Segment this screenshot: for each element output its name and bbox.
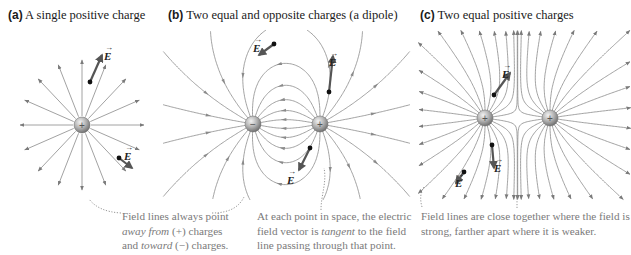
e-vector-label-c3: →E: [455, 177, 462, 189]
svg-text:+: +: [79, 120, 85, 131]
caption-b-line1: At each point in space, the electric: [257, 209, 411, 224]
caption-a-line3: and toward (−) charges.: [122, 238, 229, 253]
e-vector-label-b3: →E: [287, 174, 294, 186]
caption-leader-lines: [89, 168, 517, 213]
caption-b: At each point in space, the electric fie…: [257, 209, 411, 253]
e-vector-label-b2: →E: [329, 56, 336, 68]
electric-field-vectors: [88, 42, 510, 183]
caption-a-line1: Field lines always point: [122, 209, 229, 224]
caption-b-line2: field vector is tangent to the field: [257, 224, 411, 239]
caption-c-line2: strong, farther apart where it is weaker…: [421, 224, 630, 239]
svg-text:+: +: [317, 119, 323, 130]
caption-a-line2: away from (+) charges: [122, 224, 229, 239]
panel-c-field-lines: [418, 30, 631, 199]
caption-c: Field lines are close together where the…: [421, 209, 630, 238]
caption-a: Field lines always point away from (+) c…: [122, 209, 229, 253]
e-vector-label-c2: →E: [494, 162, 501, 174]
caption-b-line3: line passing through that point.: [257, 238, 411, 253]
svg-text:−: −: [250, 119, 256, 130]
e-vector-label-a2: →E: [124, 150, 131, 162]
e-vector-label-b1: →E: [253, 42, 260, 54]
caption-c-line1: Field lines are close together where the…: [421, 209, 630, 224]
e-vector-label-c1: →E: [502, 68, 509, 80]
svg-text:+: +: [482, 113, 488, 124]
e-vector-label-a1: →E: [104, 50, 111, 62]
svg-text:+: +: [547, 113, 553, 124]
